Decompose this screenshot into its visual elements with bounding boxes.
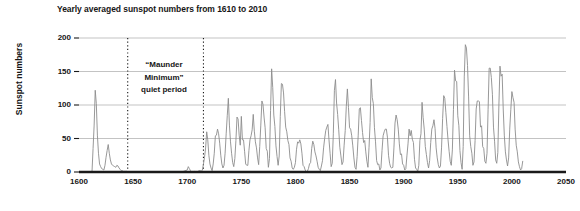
x-tick-label-1950: 1950 (438, 177, 478, 186)
y-tick-label-50: 50 (45, 134, 71, 143)
annotation-line-1: “Maunder (133, 59, 195, 72)
y-tick-label-200: 200 (45, 33, 71, 42)
y-tick-label-0: 0 (45, 167, 71, 176)
annotation-line-3: quiet period (133, 84, 195, 97)
annotation-line-2: Minimum” (133, 72, 195, 85)
x-tick-label-1850: 1850 (330, 177, 370, 186)
y-tick-label-100: 100 (45, 100, 71, 109)
x-tick-label-1600: 1600 (59, 177, 99, 186)
maunder-minimum-annotation: “MaunderMinimum”quiet period (133, 59, 195, 97)
y-tick-label-150: 150 (45, 67, 71, 76)
x-tick-label-2050: 2050 (546, 177, 580, 186)
x-tick-label-1750: 1750 (221, 177, 261, 186)
x-tick-label-1650: 1650 (113, 177, 153, 186)
x-tick-label-1900: 1900 (384, 177, 424, 186)
x-tick-label-2000: 2000 (492, 177, 532, 186)
x-tick-label-1700: 1700 (167, 177, 207, 186)
x-tick-label-1800: 1800 (275, 177, 315, 186)
